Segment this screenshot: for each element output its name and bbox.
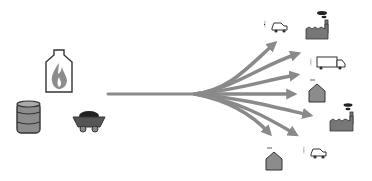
car-icon: ⸽ (264, 20, 287, 33)
house-icon (309, 80, 325, 102)
coal-cart-icon (73, 111, 105, 132)
svg-text:⸽: ⸽ (310, 58, 312, 66)
svg-text:⸽: ⸽ (264, 20, 266, 28)
car-icon: ⸽ (303, 146, 326, 159)
oil-barrel-icon (17, 101, 40, 133)
svg-text:⸽: ⸽ (303, 146, 305, 154)
energy-distribution-diagram: ⸽ ⸽ ⸽ (0, 0, 372, 181)
distribution-arrows (108, 44, 309, 134)
gas-flame-tank-icon (46, 50, 72, 92)
factory-icon (306, 11, 328, 39)
house-icon (266, 148, 282, 170)
factory-icon (330, 103, 353, 131)
truck-icon: ⸽ (310, 57, 345, 70)
